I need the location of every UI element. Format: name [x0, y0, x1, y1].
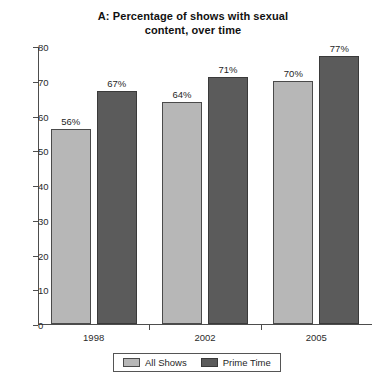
bar-value-label: 70% — [284, 68, 303, 79]
bar-value-label: 77% — [330, 43, 349, 54]
plot-area: 01020304050607080 199820022005 56%67%64%… — [38, 47, 372, 325]
legend-label: All Shows — [145, 357, 187, 368]
bar-2002-all-shows: 64% — [162, 102, 202, 324]
legend-item-all-shows: All Shows — [123, 357, 187, 368]
chart-title: A: Percentage of shows with sexual conte… — [40, 9, 346, 37]
chart-title-line-1: A: Percentage of shows with sexual — [40, 9, 346, 23]
x-axis-label: 2005 — [306, 332, 327, 343]
bar-2002-prime-time: 71% — [208, 77, 248, 324]
legend-label: Prime Time — [223, 357, 271, 368]
bar-2005-prime-time: 77% — [319, 56, 359, 324]
x-axis-label: 2002 — [194, 332, 215, 343]
legend-swatch — [123, 358, 140, 367]
x-axis-line — [38, 324, 372, 325]
bar-1998-prime-time: 67% — [97, 91, 137, 324]
x-axis-tick — [149, 325, 150, 330]
chart-legend: All ShowsPrime Time — [113, 353, 281, 372]
bar-value-label: 67% — [107, 78, 126, 89]
bar-2005-all-shows: 70% — [273, 81, 313, 324]
bar-value-label: 56% — [61, 116, 80, 127]
chart-title-line-2: content, over time — [40, 23, 346, 37]
bar-1998-all-shows: 56% — [51, 129, 91, 324]
bar-value-label: 71% — [218, 64, 237, 75]
legend-swatch — [201, 358, 218, 367]
x-axis-tick — [261, 325, 262, 330]
legend-item-prime-time: Prime Time — [201, 357, 271, 368]
chart-figure: A: Percentage of shows with sexual conte… — [0, 0, 386, 390]
x-axis-label: 1998 — [83, 332, 104, 343]
bar-value-label: 64% — [172, 89, 191, 100]
